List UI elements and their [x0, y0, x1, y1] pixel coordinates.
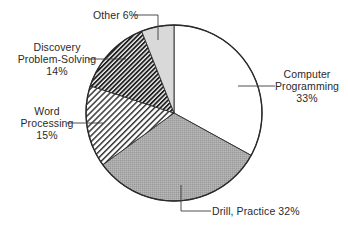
- label-word-line1: Word: [17, 105, 77, 117]
- label-discovery-line1: Discovery: [12, 41, 102, 53]
- label-discovery: Discovery Problem-Solving 14%: [12, 41, 102, 77]
- label-word: Word Processing 15%: [17, 105, 77, 141]
- label-programming-line2: Programming: [272, 80, 342, 92]
- label-other: Other 6%: [93, 9, 138, 21]
- label-word-value: 15%: [17, 129, 77, 141]
- label-other-text: Other 6%: [93, 9, 138, 21]
- pie-slices: [86, 25, 262, 201]
- label-word-line2: Processing: [17, 117, 77, 129]
- label-discovery-value: 14%: [12, 65, 102, 77]
- pie-chart: Other 6% Discovery Problem-Solving 14% W…: [0, 0, 348, 227]
- label-drill: Drill, Practice 32%: [212, 205, 300, 217]
- label-programming-value: 33%: [272, 92, 342, 104]
- label-programming-line1: Computer: [272, 68, 342, 80]
- label-programming: Computer Programming 33%: [272, 68, 342, 104]
- label-drill-text: Drill, Practice 32%: [212, 205, 300, 217]
- label-discovery-line2: Problem-Solving: [12, 53, 102, 65]
